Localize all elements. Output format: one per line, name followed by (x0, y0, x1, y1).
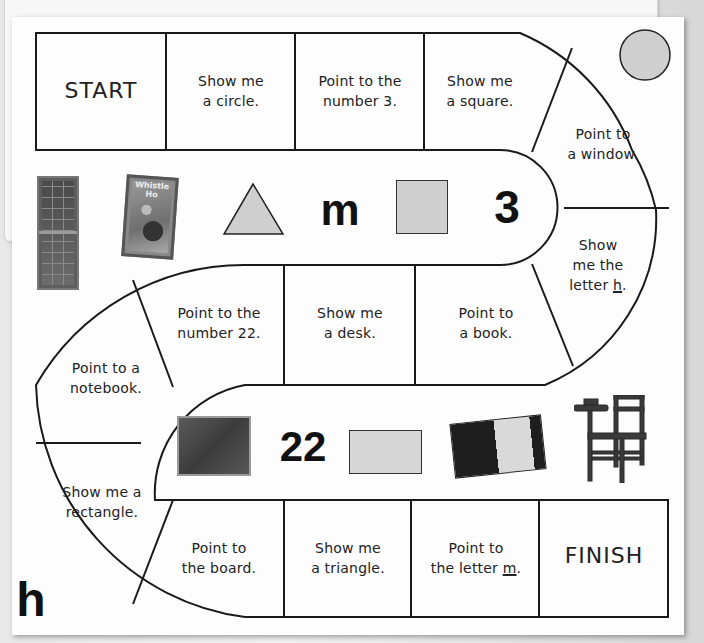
chalkboard-photo (177, 416, 251, 476)
book-photo: Whistle Ho (121, 174, 179, 259)
text-fragment: the letter (431, 560, 503, 576)
space-text-line: Show me (311, 538, 385, 558)
space-text-line: Show (569, 235, 626, 255)
text-fragment: . (622, 277, 627, 293)
space-point-number-22: Point to the number 22. (177, 303, 260, 343)
space-text-line: letter h. (569, 275, 626, 295)
notebook-photo (449, 414, 546, 478)
space-text-line: Point to (431, 538, 521, 558)
letter-h: h (16, 576, 45, 624)
space-text-line: a desk. (317, 323, 383, 343)
space-text-line: the board. (182, 558, 256, 578)
space-point-book: Point to a book. (459, 303, 514, 343)
finish-space: FINISH (565, 546, 644, 566)
rectangle-shape (349, 430, 422, 474)
letter-m: m (320, 188, 359, 232)
text-fragment: . (517, 560, 522, 576)
space-point-notebook: Point to a notebook. (70, 358, 142, 398)
space-show-triangle: Show me a triangle. (311, 538, 385, 578)
number-3: 3 (494, 184, 520, 230)
space-show-rectangle: Show me a rectangle. (62, 482, 141, 522)
space-text-line: the letter m. (431, 558, 521, 578)
space-text-line: Point to (567, 124, 638, 144)
text-fragment: letter (569, 277, 613, 293)
window-photo (37, 176, 79, 290)
space-text-line: rectangle. (62, 502, 141, 522)
space-show-circle: Show me a circle. (198, 71, 264, 111)
underlined-letter: h (613, 277, 622, 293)
space-text-line: Show me (317, 303, 383, 323)
book-cover-title: Whistle Ho (128, 179, 175, 200)
space-text-line: Show me (198, 71, 264, 91)
space-text-line: a triangle. (311, 558, 385, 578)
square-shape (396, 180, 448, 234)
space-text-line: a square. (447, 91, 514, 111)
underlined-letter: m (503, 560, 517, 576)
number-22: 22 (280, 426, 327, 468)
space-point-number-3: Point to the number 3. (318, 71, 401, 111)
space-text-line: number 3. (318, 91, 401, 111)
space-show-desk: Show me a desk. (317, 303, 383, 343)
space-text-line: a circle. (198, 91, 264, 111)
space-show-letter-h: Show me the letter h. (569, 235, 626, 295)
space-point-board: Point to the board. (182, 538, 256, 578)
space-text-line: Point to the (318, 71, 401, 91)
space-text-line: Point to the (177, 303, 260, 323)
desk-photo (574, 395, 650, 483)
space-text-line: number 22. (177, 323, 260, 343)
space-point-letter-m: Point to the letter m. (431, 538, 521, 578)
space-text-line: Show me a (62, 482, 141, 502)
window-sash (39, 231, 77, 234)
space-point-window: Point to a window. (567, 124, 638, 164)
triangle-shape (224, 184, 283, 234)
space-text-line: Point to (459, 303, 514, 323)
space-text-line: me the (569, 255, 626, 275)
space-text-line: Show me (447, 71, 514, 91)
space-show-square: Show me a square. (447, 71, 514, 111)
space-text-line: Point to a (70, 358, 142, 378)
space-text-line: Point to (182, 538, 256, 558)
space-text-line: a window. (567, 144, 638, 164)
start-space: START (65, 81, 138, 101)
space-text-line: notebook. (70, 378, 142, 398)
circle-shape (620, 30, 670, 80)
space-text-line: a book. (459, 323, 514, 343)
